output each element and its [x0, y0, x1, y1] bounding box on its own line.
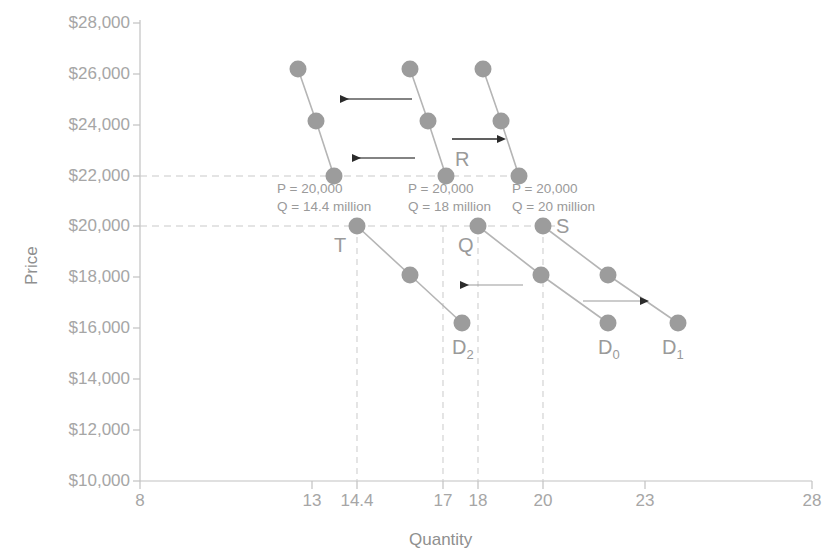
annotation-left-line1: P = 20,000 [277, 181, 342, 196]
data-point [475, 61, 492, 78]
annotation-right-line1: P = 20,000 [512, 181, 577, 196]
y-tick-label-16000: $16,000 [34, 318, 130, 338]
data-point [535, 218, 552, 235]
x-tick-label-28: 28 [792, 491, 828, 511]
x-tick-label-20: 20 [523, 491, 563, 511]
data-point [349, 218, 366, 235]
y-tick-label-28000: $28,000 [34, 13, 130, 33]
y-tick-label-18000: $18,000 [34, 267, 130, 287]
label-point-q: Q [458, 234, 474, 257]
series-supply-s1 [475, 61, 528, 185]
annotation-right-line2: Q = 20 million [512, 199, 595, 214]
label-curve-d1-base: D [662, 336, 676, 358]
y-tick-label-14000: $14,000 [34, 369, 130, 389]
x-tick-label-18: 18 [458, 491, 498, 511]
series-supply-s2 [290, 61, 343, 185]
data-point [600, 267, 617, 284]
vertical-reference-lines [357, 226, 543, 481]
series-demand-d2 [349, 218, 471, 332]
y-tick-label-26000: $26,000 [34, 64, 130, 84]
x-tick-label-14-4: 14.4 [331, 491, 383, 511]
label-point-s: S [556, 215, 569, 238]
label-curve-d0-sub: 0 [612, 347, 619, 362]
data-point [402, 267, 419, 284]
label-curve-d1-sub: 1 [676, 347, 683, 362]
data-point [290, 61, 307, 78]
annotation-middle-line1: P = 20,000 [408, 181, 473, 196]
y-tick-label-24000: $24,000 [34, 115, 130, 135]
label-curve-d2: D2 [452, 336, 474, 362]
label-curve-d2-sub: 2 [466, 347, 473, 362]
data-point [420, 113, 437, 130]
y-axis-title: Price [22, 246, 42, 285]
data-point [454, 315, 471, 332]
label-point-t: T [334, 234, 346, 257]
annotation-middle-line2: Q = 18 million [408, 199, 491, 214]
data-point [493, 113, 510, 130]
y-tick-label-10000: $10,000 [34, 471, 130, 491]
x-axis-ticks [140, 481, 812, 489]
y-tick-label-12000: $12,000 [34, 420, 130, 440]
label-curve-d0: D0 [598, 336, 620, 362]
x-axis-title: Quantity [409, 530, 472, 550]
data-point [308, 113, 325, 130]
x-tick-label-23: 23 [625, 491, 665, 511]
label-curve-d0-base: D [598, 336, 612, 358]
y-axis-ticks [133, 23, 140, 481]
annotation-left-line2: Q = 14.4 million [277, 199, 371, 214]
x-tick-label-17: 17 [423, 491, 463, 511]
series-supply-s0 [402, 61, 455, 185]
data-point [470, 218, 487, 235]
chart-container: $28,000 $26,000 $24,000 $22,000 $20,000 … [0, 0, 828, 558]
label-curve-d1: D1 [662, 336, 684, 362]
x-tick-label-13: 13 [292, 491, 332, 511]
label-curve-d2-base: D [452, 336, 466, 358]
data-point [600, 315, 617, 332]
label-point-r: R [455, 148, 469, 171]
axis-lines [140, 20, 812, 481]
data-point [533, 267, 550, 284]
data-point [402, 61, 419, 78]
y-tick-label-20000: $20,000 [34, 216, 130, 236]
data-point [670, 315, 687, 332]
y-tick-label-22000: $22,000 [34, 166, 130, 186]
x-tick-label-8: 8 [120, 491, 160, 511]
